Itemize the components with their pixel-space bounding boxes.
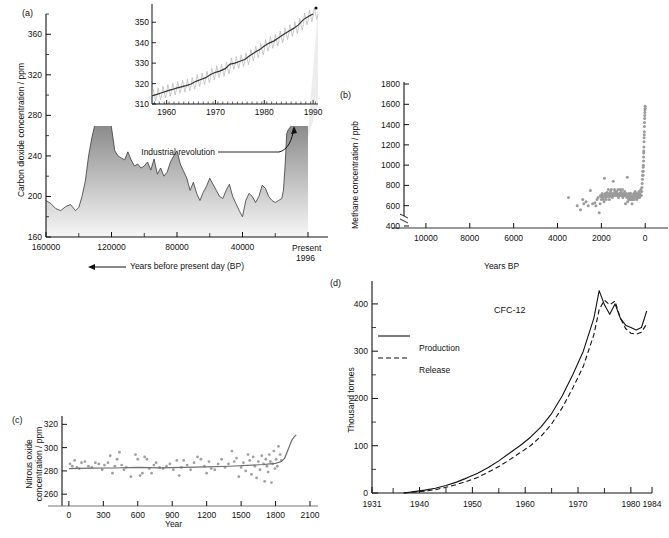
axis-tick-label: 1960 <box>516 499 535 509</box>
panel-a-inset-keeling-curve: 3103203303403501960197019801990 <box>92 0 333 126</box>
panel-c-ylabel-line1: Nitrous oxide <box>24 418 34 510</box>
cfc12-release-line <box>404 300 647 493</box>
axis-tick-label: 300 <box>44 443 58 453</box>
axis-tick-label: 260 <box>44 489 58 499</box>
panel-b-ylabel: Methane concentration / ppb <box>350 95 360 255</box>
axis-tick-label: 2100 <box>301 510 320 520</box>
x-direction-arrow-icon <box>88 262 128 272</box>
axis-tick-label: 1800 <box>266 510 285 520</box>
axis-tick-label: 1984 <box>643 499 662 509</box>
axis-tick-label: 160 <box>28 232 42 242</box>
axis-tick-label: 600 <box>131 510 145 520</box>
axis-tick-label: 400 <box>354 299 368 309</box>
axis-tick-label: 320 <box>135 79 149 89</box>
panel-d-legend <box>378 336 410 358</box>
axis-tick-label: 800 <box>386 180 400 190</box>
panel-d-ylabel: Thousand tonnes <box>346 345 356 455</box>
axis-tick-label: 0 <box>363 488 368 498</box>
axis-tick-label: 280 <box>44 466 58 476</box>
panel-a-tag: (a) <box>22 8 33 18</box>
panel-d-cfc12: (d) Thousand tonnes 01002003004001931194… <box>322 275 669 538</box>
axis-tick-label: 310 <box>135 99 149 109</box>
panel-c-tag: (c) <box>12 415 23 425</box>
panel-d-title: CFC-12 <box>494 305 526 315</box>
axis-tick-label: 1931 <box>363 499 382 509</box>
panel-c-plot: 26028030032003006009001200150018002100 <box>0 400 340 538</box>
methane-scatter-points <box>567 105 647 214</box>
axis-tick-label: 80000 <box>165 242 189 252</box>
axis-tick-label: 1200 <box>381 140 400 150</box>
axis-tick-label: 160000 <box>32 242 61 252</box>
axis-tick-label: 1400 <box>381 120 400 130</box>
panel-a-plot: 1602002402803203601600001200008000040000… <box>0 0 340 280</box>
axis-tick-label: 1200 <box>197 510 216 520</box>
axis-tick-label: 40000 <box>231 242 255 252</box>
cfc12-production-line <box>404 291 647 493</box>
axis-tick-label: 400 <box>386 221 400 231</box>
svg-text:Industrial revolution: Industrial revolution <box>141 147 215 157</box>
axis-tick-label: 330 <box>135 58 149 68</box>
axis-tick-label: 320 <box>44 419 58 429</box>
axis-tick-label: 0 <box>643 233 648 243</box>
axis-tick-label: 1000 <box>381 160 400 170</box>
axis-tick-label: 120000 <box>97 242 126 252</box>
panel-a-co2: (a) Carbon dioxide concentration / ppm 1… <box>0 0 340 280</box>
panel-b-xlabel: Years BP <box>484 261 519 271</box>
axis-tick-label: 320 <box>28 70 42 80</box>
panel-d-legend-release: Release <box>419 365 450 375</box>
panel-d-legend-production: Production <box>419 343 460 353</box>
axis-tick-label: 1500 <box>232 510 251 520</box>
panel-a-present-label: Present <box>292 243 321 253</box>
axis-tick-label: 1970 <box>569 499 588 509</box>
panel-a-xlabel: Years before present day (BP) <box>130 261 244 271</box>
panel-b-methane: (b) Methane concentration / ppb 40060080… <box>336 60 669 280</box>
panel-c-ylabel-line2: concentration / ppm <box>34 410 44 518</box>
panel-c-nitrous-oxide: (c) Nitrous oxide concentration / ppm 26… <box>0 400 340 538</box>
axis-tick-label: 1960 <box>157 107 176 117</box>
industrial-revolution-annotation: Industrial revolution <box>141 126 297 157</box>
axis-tick-label: 1800 <box>381 79 400 89</box>
axis-tick-label: 6000 <box>504 233 523 243</box>
axis-tick-label: 240 <box>28 151 42 161</box>
axis-tick-label: 200 <box>28 191 42 201</box>
axis-tick-label: 10000 <box>414 233 438 243</box>
axis-tick-label: 1980 <box>621 499 640 509</box>
axis-tick-label: 1600 <box>381 99 400 109</box>
axis-tick-label: 340 <box>135 38 149 48</box>
axis-tick-label: 300 <box>96 510 110 520</box>
axis-tick-label: 1940 <box>410 499 429 509</box>
panel-c-xlabel: Year <box>165 519 182 529</box>
panel-a-present-year: 1996 <box>296 253 315 263</box>
axis-tick-label: 1980 <box>255 107 274 117</box>
panel-b-plot: 4006008001000120014001600180010000800060… <box>336 60 669 280</box>
nitrous-oxide-scatter-points <box>69 445 283 484</box>
axis-tick-label: 2000 <box>592 233 611 243</box>
axis-tick-label: 360 <box>28 29 42 39</box>
axis-tick-label: 0 <box>67 510 72 520</box>
axis-tick-label: 600 <box>386 201 400 211</box>
panel-d-tag: (d) <box>330 278 341 288</box>
axis-tick-label: 280 <box>28 110 42 120</box>
axis-tick-label: 4000 <box>548 233 567 243</box>
axis-tick-label: 1950 <box>463 499 482 509</box>
axis-tick-label: 8000 <box>460 233 479 243</box>
axis-tick-label: 1970 <box>206 107 225 117</box>
panel-a-ylabel: Carbon dioxide concentration / ppm <box>16 25 26 235</box>
nitrous-oxide-trend-line <box>69 435 296 469</box>
axis-tick-label: 350 <box>135 17 149 27</box>
